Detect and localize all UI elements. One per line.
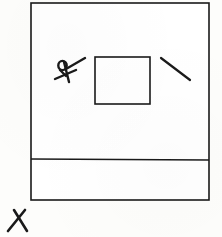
sketch-drawing [0, 0, 222, 237]
sketch-canvas-root [0, 0, 222, 237]
inner-square-rect [95, 57, 150, 104]
